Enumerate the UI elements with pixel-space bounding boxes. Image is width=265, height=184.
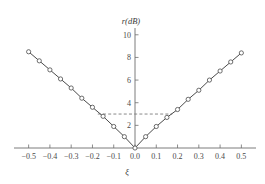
x-tick-label: −0.1 [106, 152, 121, 161]
data-point-marker [48, 68, 52, 72]
x-tick-label: 0.0 [130, 152, 140, 161]
y-axis: 246810 [123, 28, 139, 148]
data-point-marker [186, 97, 190, 101]
y-axis-title: r(dB) [122, 16, 141, 26]
data-point-marker [229, 60, 233, 64]
x-tick-label: −0.2 [85, 152, 100, 161]
y-tick-label: 10 [123, 31, 131, 40]
data-point-marker [101, 114, 105, 118]
x-tick-label: 0.3 [194, 152, 204, 161]
data-point-marker [58, 77, 62, 81]
chart-figure: r(dB) ξ −0.5−0.4−0.3−0.2−0.10.00.10.20.3… [0, 0, 265, 184]
x-tick-label: −0.5 [21, 152, 36, 161]
x-tick-label: 0.2 [173, 152, 183, 161]
x-axis-title: ξ [125, 167, 129, 177]
data-point-marker [154, 124, 158, 128]
y-tick-label: 4 [127, 99, 131, 108]
y-tick-label: 8 [127, 53, 131, 62]
data-point-marker [133, 146, 137, 150]
data-point-marker [144, 135, 148, 139]
data-point-marker [175, 107, 179, 111]
data-point-marker [218, 69, 222, 73]
data-point-marker [165, 115, 169, 119]
x-tick-label: 0.1 [151, 152, 161, 161]
y-tick-label: 6 [127, 76, 131, 85]
data-point-marker [112, 124, 116, 128]
data-point-marker [69, 86, 73, 90]
x-tick-label: 0.5 [236, 152, 246, 161]
y-tick-label: 2 [127, 121, 131, 130]
data-point-marker [80, 96, 84, 100]
data-point-marker [207, 78, 211, 82]
data-point-marker [37, 59, 41, 63]
x-tick-label: −0.3 [64, 152, 79, 161]
x-tick-label: 0.4 [215, 152, 225, 161]
data-point-marker [239, 51, 243, 55]
data-point-marker [90, 105, 94, 109]
x-tick-label: −0.4 [43, 152, 58, 161]
data-point-marker [122, 135, 126, 139]
plot-area: r(dB) ξ −0.5−0.4−0.3−0.2−0.10.00.10.20.3… [0, 0, 265, 184]
data-point-marker [27, 50, 31, 54]
data-point-marker [197, 88, 201, 92]
